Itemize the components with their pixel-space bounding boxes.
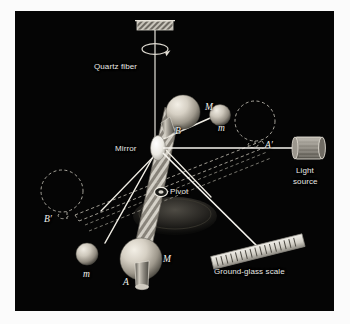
rod-end-cap-lower (135, 261, 149, 290)
illustration-panel: Quartz fiber Mirror Pivot Light source G… (15, 11, 334, 311)
figure-root: Quartz fiber Mirror Pivot Light source G… (0, 0, 350, 324)
symbol-ghost-a-prime: A′ (265, 140, 273, 150)
pivot-ring (155, 187, 168, 196)
symbol-lower-small-mass: m (83, 269, 90, 279)
ceiling-bracket (135, 21, 175, 30)
scene-svg (15, 11, 334, 311)
label-pivot: Pivot (170, 187, 188, 197)
ground-glass-scale-bar (211, 234, 305, 269)
symbol-lower-rod-end: A (123, 277, 129, 287)
label-light-source-line1: Light (296, 166, 314, 176)
label-light-source-line2: source (293, 177, 318, 187)
symbol-lower-large-mass: M (163, 254, 171, 264)
label-mirror: Mirror (115, 144, 136, 154)
label-ground-glass-scale: Ground-glass scale (214, 267, 285, 277)
ghost-position-b-prime (41, 170, 83, 219)
light-source-lamp (292, 137, 325, 159)
label-quartz-fiber: Quartz fiber (94, 62, 137, 72)
symbol-upper-rod-end: B (175, 126, 181, 136)
symbol-ghost-b-prime: B′ (44, 214, 52, 224)
small-mass-lower (76, 243, 98, 265)
symbol-upper-small-mass: m (218, 123, 225, 133)
rotation-arrow-icon (142, 44, 171, 57)
symbol-upper-large-mass: M (205, 102, 213, 112)
